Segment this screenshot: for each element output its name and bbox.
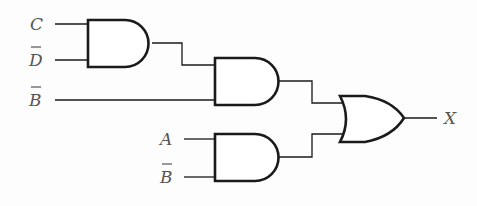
and-gate-3 bbox=[215, 134, 279, 181]
label-a: A bbox=[158, 129, 172, 149]
wire-and3-or bbox=[279, 134, 343, 157]
wire-and2-or bbox=[279, 81, 343, 103]
label-dbar: D bbox=[28, 50, 43, 70]
logic-circuit-diagram: C D B A B X bbox=[0, 0, 477, 206]
label-output-x: X bbox=[442, 108, 457, 128]
circuit-svg: C D B A B X bbox=[0, 0, 477, 206]
label-bbar1: B bbox=[28, 90, 42, 110]
and-gate-1 bbox=[88, 20, 148, 67]
or-gate bbox=[340, 96, 404, 142]
label-c: C bbox=[30, 14, 43, 34]
and-gate-2 bbox=[215, 58, 278, 105]
label-bbar2: B bbox=[159, 167, 173, 187]
wire-and1-and2 bbox=[152, 43, 215, 65]
